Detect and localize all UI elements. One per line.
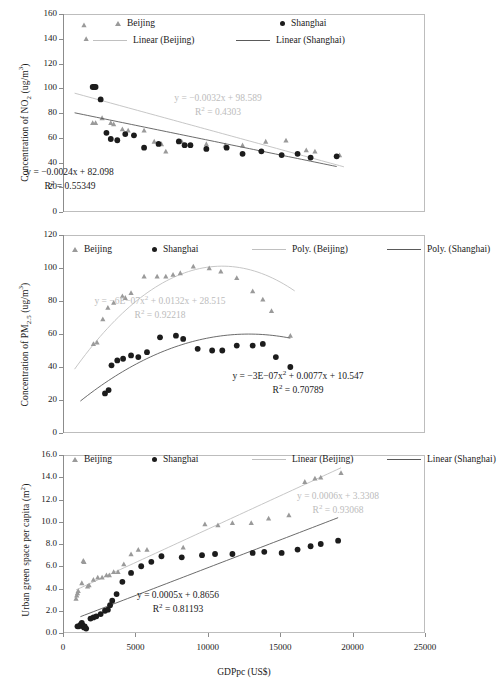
data-point-beijing <box>207 265 212 270</box>
legend-row: Linear (Beijing)Linear (Shanghai) <box>115 35 345 45</box>
y-tick-label: 80 <box>21 295 57 305</box>
legend-item-fit-beijing[interactable]: Linear (Beijing) <box>252 454 387 464</box>
legend-item-linear-beijing[interactable]: Linear (Beijing) <box>93 35 258 45</box>
chart-panel-pm25: Concentration of PM2.5 (ug/m3) 020406080… <box>0 232 500 444</box>
y-axis-line <box>63 235 64 433</box>
data-point-beijing <box>312 149 317 154</box>
trendline-equation-shanghai-green-space: y = 0.0005x + 0.8656R2 = 0.81193 <box>98 589 258 616</box>
trendline-equation-beijing-no2: y = −0.0032x + 98.589R2 = 0.4303 <box>138 92 298 119</box>
data-point-beijing <box>79 580 84 585</box>
data-point-shanghai <box>119 579 125 585</box>
data-point-shanghai <box>203 146 209 152</box>
data-point-shanghai <box>279 550 285 556</box>
triangle-marker-icon <box>72 247 78 252</box>
legend-item-fit-shanghai[interactable]: Poly. (Shanghai) <box>387 244 490 254</box>
data-point-beijing <box>269 308 274 313</box>
y-tick-label: 4.0 <box>21 583 57 593</box>
data-point-shanghai <box>260 341 266 347</box>
data-point-beijing <box>312 476 317 481</box>
data-point-beijing <box>121 561 126 566</box>
data-point-shanghai <box>261 549 267 555</box>
data-point-beijing <box>181 545 186 550</box>
trendline-equation-shanghai-no2: y = −0.0024x + 82.098R2 = 0.55349 <box>0 166 150 193</box>
data-point-shanghai <box>234 343 240 349</box>
y-axis-line <box>63 455 64 633</box>
data-point-beijing <box>338 470 343 475</box>
data-point-shanghai <box>240 151 246 157</box>
y-tick-label: 60 <box>21 328 57 338</box>
data-point-beijing <box>163 274 168 279</box>
legend-green-space: BeijingShanghaiLinear (Beijing)Linear (S… <box>72 454 496 464</box>
data-point-shanghai <box>83 626 89 632</box>
y-tick-label: 120 <box>21 229 57 239</box>
data-point-shanghai <box>173 333 179 339</box>
triangle-marker-icon <box>115 21 121 26</box>
y-tick-label: 160 <box>21 8 57 18</box>
legend-label: Beijing <box>84 244 112 254</box>
data-point-shanghai <box>131 132 137 138</box>
y-tick-label: 120 <box>21 58 57 68</box>
data-point-beijing <box>234 275 239 280</box>
data-point-shanghai <box>159 553 165 559</box>
data-point-beijing <box>204 141 209 146</box>
legend-label: Linear (Shanghai) <box>427 454 496 464</box>
data-point-beijing <box>120 126 125 131</box>
y-tick-mark <box>59 212 63 213</box>
x-tick-label: 15000 <box>250 642 310 652</box>
data-point-beijing <box>91 577 96 582</box>
data-point-shanghai <box>109 362 115 368</box>
data-point-shanghai <box>180 336 186 342</box>
legend-item-shanghai[interactable]: Shanghai <box>152 244 252 254</box>
x-tick-mark <box>135 633 136 637</box>
legend-item-fit-beijing[interactable]: Poly. (Beijing) <box>252 244 387 254</box>
legend-label: Shanghai <box>163 454 198 464</box>
y-tick-label: 6.0 <box>21 560 57 570</box>
y-tick-label: 80 <box>21 107 57 117</box>
series-layer-green-space <box>0 444 500 695</box>
legend-row: BeijingShanghaiPoly. (Beijing)Poly. (Sha… <box>72 244 490 254</box>
trendline-equation-beijing-pm25: y = −6E−07x2 + 0.0132x + 28.515R2 = 0.92… <box>80 294 240 322</box>
data-point-beijing <box>191 264 196 269</box>
legend-label: Linear (Beijing) <box>133 35 194 45</box>
y-tick-label: 10.0 <box>21 516 57 526</box>
data-point-shanghai <box>135 354 141 360</box>
legend-item-linear-shanghai[interactable]: Linear (Shanghai) <box>236 35 345 45</box>
legend-item-beijing[interactable]: Beijing <box>72 454 152 464</box>
data-point-shanghai <box>273 354 279 360</box>
data-point-beijing <box>178 270 183 275</box>
legend-no2: BeijingShanghaiLinear (Beijing)Linear (S… <box>115 18 345 45</box>
y-tick-label: 16.0 <box>21 449 57 459</box>
data-point-shanghai <box>195 346 201 352</box>
data-point-shanghai <box>141 145 147 151</box>
data-point-shanghai <box>98 96 104 102</box>
legend-item-beijing[interactable]: Beijing <box>72 244 152 254</box>
legend-row: BeijingShanghaiLinear (Beijing)Linear (S… <box>72 454 496 464</box>
x-tick-mark <box>63 633 64 637</box>
circle-marker-icon <box>280 21 285 26</box>
y-tick-label: 8.0 <box>21 538 57 548</box>
legend-pm25: BeijingShanghaiPoly. (Beijing)Poly. (Sha… <box>72 244 490 254</box>
trendline-beijing <box>76 468 341 590</box>
x-tick-label: 10000 <box>178 642 238 652</box>
x-tick-mark <box>280 633 281 637</box>
data-point-shanghai <box>209 348 215 354</box>
legend-item-beijing[interactable]: Beijing <box>115 18 280 28</box>
chart-panel-no2: Concentration of NO2 (ug/m3) 02040608010… <box>0 0 500 232</box>
y-tick-label: 40 <box>21 361 57 371</box>
data-point-shanghai <box>295 151 301 157</box>
data-point-beijing <box>230 520 235 525</box>
legend-label: Beijing <box>84 454 112 464</box>
data-point-beijing <box>283 138 288 143</box>
legend-label: Poly. (Beijing) <box>292 244 348 254</box>
data-point-beijing <box>302 479 307 484</box>
legend-item-fit-shanghai[interactable]: Linear (Shanghai) <box>387 454 496 464</box>
data-point-shanghai <box>114 137 120 143</box>
data-point-beijing <box>84 36 89 41</box>
y-tick-label: 20 <box>21 394 57 404</box>
y-tick-label: 100 <box>21 262 57 272</box>
data-point-beijing <box>202 521 207 526</box>
legend-item-shanghai[interactable]: Shanghai <box>280 18 326 28</box>
legend-label: Shanghai <box>163 244 198 254</box>
legend-item-shanghai[interactable]: Shanghai <box>152 454 252 464</box>
data-point-beijing <box>81 23 86 28</box>
